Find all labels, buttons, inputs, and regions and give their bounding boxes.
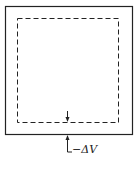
inward-arrow-icon (66, 111, 70, 122)
inner-dashed-boundary (18, 19, 119, 123)
delta-v-label: −ΔV (72, 143, 97, 156)
outer-boundary (6, 7, 133, 135)
diagram-canvas (0, 0, 137, 172)
